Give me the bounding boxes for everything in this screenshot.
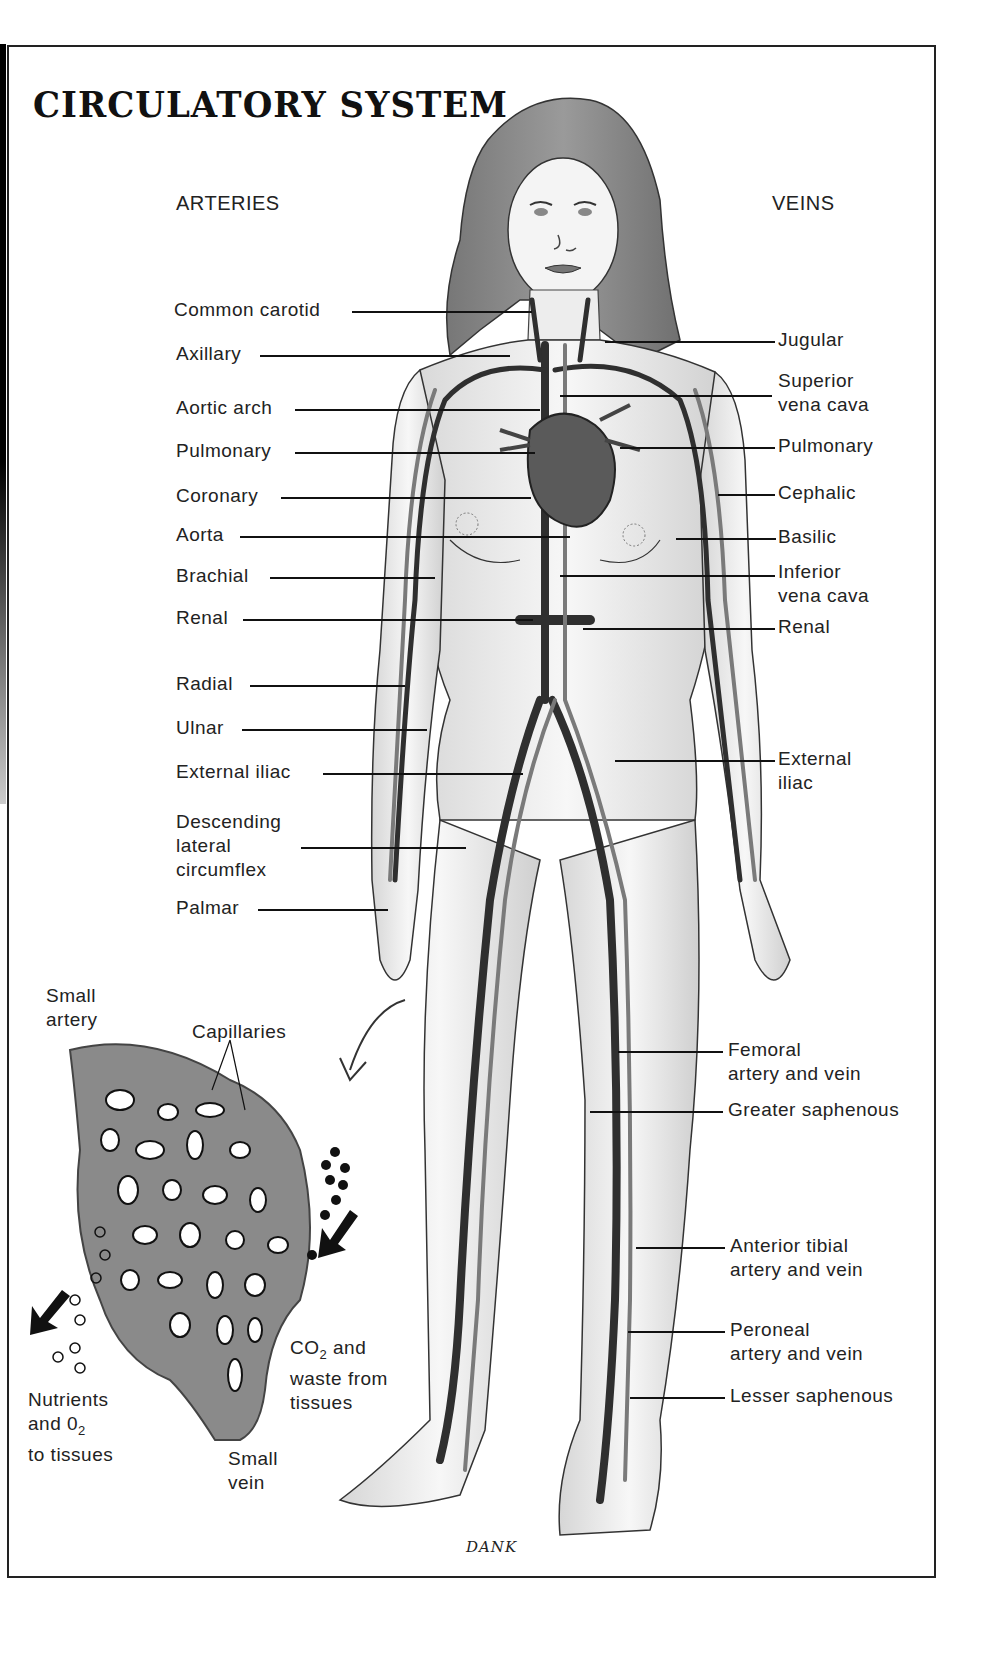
label-radial: Radial	[176, 672, 233, 696]
label-palmar: Palmar	[176, 896, 239, 920]
artist-signature: DANK	[466, 1538, 517, 1556]
label-external-iliac-vein: External iliac	[778, 747, 852, 795]
leader-line	[560, 575, 775, 577]
label-common-carotid: Common carotid	[174, 298, 320, 322]
label-aorta: Aorta	[176, 523, 224, 547]
label-small-artery: Small artery	[46, 984, 98, 1032]
leader-line	[636, 1247, 725, 1249]
leader-line	[618, 1051, 723, 1053]
leader-line	[240, 536, 570, 538]
leader-line	[560, 395, 772, 397]
label-coronary: Coronary	[176, 484, 258, 508]
label-capillaries: Capillaries	[192, 1020, 286, 1044]
leader-line	[295, 409, 540, 411]
arteries-heading: ARTERIES	[176, 192, 280, 215]
label-brachial: Brachial	[176, 564, 249, 588]
label-descending-lateral-circumflex: Descending lateral circumflex	[176, 810, 281, 882]
label-femoral: Femoral artery and vein	[728, 1038, 861, 1086]
label-axillary: Axillary	[176, 342, 241, 366]
leader-line	[242, 729, 427, 731]
leader-line	[258, 909, 388, 911]
leader-line	[281, 497, 531, 499]
scan-edge-shadow	[0, 44, 6, 804]
label-pulmonary-artery: Pulmonary	[176, 439, 271, 463]
label-jugular: Jugular	[778, 328, 844, 352]
label-co2-waste: CO2 and waste from tissues	[290, 1336, 388, 1415]
diagram-title: CIRCULATORY SYSTEM	[33, 83, 508, 125]
leader-line	[615, 760, 775, 762]
label-pulmonary-vein: Pulmonary	[778, 434, 873, 458]
leader-line	[295, 452, 535, 454]
leader-line	[260, 355, 510, 357]
leader-line	[590, 1111, 723, 1113]
label-greater-saphenous: Greater saphenous	[728, 1098, 899, 1122]
leader-line	[250, 685, 405, 687]
leader-line	[630, 1397, 725, 1399]
label-cephalic: Cephalic	[778, 481, 856, 505]
label-renal-vein: Renal	[778, 615, 830, 639]
leader-line	[323, 773, 523, 775]
leader-line	[605, 341, 775, 343]
label-renal-artery: Renal	[176, 606, 228, 630]
label-aortic-arch: Aortic arch	[176, 396, 272, 420]
leader-line	[583, 628, 775, 630]
label-external-iliac-artery: External iliac	[176, 760, 291, 784]
label-lesser-saphenous: Lesser saphenous	[730, 1384, 893, 1408]
label-nutrients-o2: Nutrients and 02 to tissues	[28, 1388, 113, 1467]
leader-line	[270, 577, 435, 579]
leader-line	[628, 1331, 725, 1333]
leader-line	[243, 619, 533, 621]
label-inferior-vena-cava: Inferior vena cava	[778, 560, 869, 608]
leader-line	[352, 311, 532, 313]
veins-heading: VEINS	[772, 192, 835, 215]
label-small-vein: Small vein	[228, 1447, 278, 1495]
leader-line	[676, 538, 776, 540]
leader-line	[718, 494, 775, 496]
label-ulnar: Ulnar	[176, 716, 224, 740]
label-superior-vena-cava: Superior vena cava	[778, 369, 869, 417]
label-basilic: Basilic	[778, 525, 836, 549]
leader-line	[620, 447, 775, 449]
label-peroneal: Peroneal artery and vein	[730, 1318, 863, 1366]
leader-line	[301, 847, 466, 849]
label-anterior-tibial: Anterior tibial artery and vein	[730, 1234, 863, 1282]
